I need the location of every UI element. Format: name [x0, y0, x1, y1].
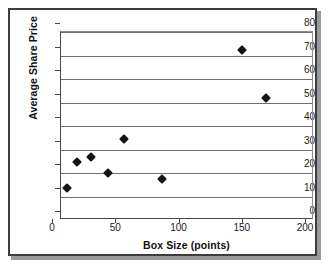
- x-axis-title: Box Size (points): [60, 239, 313, 251]
- chart-figure: 01020304050607080 050100150200 Average S…: [0, 0, 329, 267]
- figure-frame: 01020304050607080 050100150200 Average S…: [8, 8, 317, 256]
- x-tick-mark-50: [115, 219, 116, 223]
- gridline-y-50: [61, 103, 312, 104]
- x-tick-label-0: 0: [32, 222, 72, 233]
- gridline-y-20: [61, 173, 312, 174]
- gridline-y-30: [61, 150, 312, 151]
- x-tick-mark-100: [179, 219, 180, 223]
- data-point: [237, 45, 247, 55]
- gridline-y-70: [61, 56, 312, 57]
- data-point: [86, 152, 96, 162]
- gridline-y-60: [61, 79, 312, 80]
- x-tick-label-150: 150: [222, 222, 262, 233]
- data-point: [261, 93, 271, 103]
- data-point: [62, 183, 72, 193]
- x-tick-mark-200: [305, 219, 306, 223]
- plot-area: [60, 31, 313, 219]
- x-tick-label-200: 200: [285, 222, 325, 233]
- data-point: [72, 157, 82, 167]
- x-tick-mark-150: [242, 219, 243, 223]
- x-tick-label-100: 100: [159, 222, 199, 233]
- data-point: [103, 168, 113, 178]
- gridline-y-10: [61, 197, 312, 198]
- x-tick-label-50: 50: [95, 222, 135, 233]
- data-point: [157, 174, 167, 184]
- data-point: [119, 134, 129, 144]
- gridline-y-80: [61, 32, 312, 33]
- x-tick-mark-0: [52, 219, 53, 223]
- y-tick-label-80: 80: [275, 18, 315, 28]
- y-axis-title: Average Share Price: [27, 0, 39, 143]
- y-tick-mark-80: [55, 23, 60, 24]
- gridline-y-40: [61, 126, 312, 127]
